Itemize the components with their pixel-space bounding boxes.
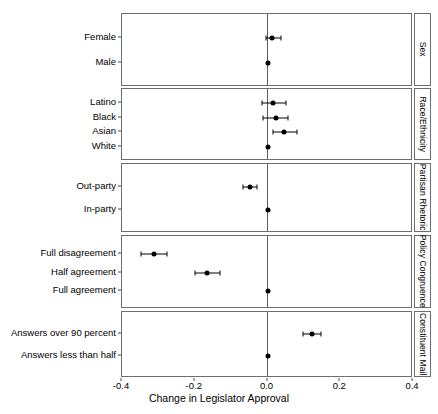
y-axis-category-label: Latino [90, 98, 116, 108]
facet-strip-label: Policy Congruence [418, 235, 427, 308]
y-axis-category-label: Half agreement [51, 267, 116, 277]
error-bar-cap-low [262, 101, 263, 106]
error-bar-cap-low [141, 252, 142, 257]
error-bar-cap-low [242, 185, 243, 190]
facet-plot-area [122, 164, 411, 231]
zero-reference-line [267, 236, 268, 307]
data-point[interactable] [265, 288, 270, 293]
facet-strip-label: Constituent Mail [418, 313, 427, 376]
data-point[interactable] [152, 252, 157, 257]
facet-strip-label: Partisan Rhetoric [418, 164, 427, 231]
y-axis-category-label: Asian [92, 126, 116, 136]
facet-plot-area [122, 89, 411, 159]
facet-strip: Race/Ethnicity [414, 88, 431, 160]
data-point[interactable] [273, 115, 278, 120]
data-point[interactable] [247, 185, 252, 190]
facet-panel-race-ethnicity [121, 88, 412, 160]
error-bar-cap-high [167, 252, 168, 257]
x-axis-tick-label: 0.2 [333, 381, 346, 391]
error-bar-cap-low [263, 115, 264, 120]
zero-reference-line [267, 312, 268, 376]
facet-strip: Constituent Mail [414, 311, 431, 377]
data-point[interactable] [271, 101, 276, 106]
y-axis-category-label: Black [93, 112, 116, 122]
x-axis-tick-label: 0.4 [405, 381, 418, 391]
x-axis-tick-label: -0.2 [186, 381, 202, 391]
error-bar-cap-low [272, 130, 273, 135]
zero-reference-line [267, 14, 268, 85]
error-bar-cap-high [286, 101, 287, 106]
facet-plot-area [122, 14, 411, 85]
facet-panel-partisan-rhetoric [121, 163, 412, 232]
error-bar-cap-low [195, 270, 196, 275]
data-point[interactable] [265, 144, 270, 149]
facet-strip: Sex [414, 13, 431, 86]
error-bar-cap-low [266, 36, 267, 41]
y-axis-category-label: Female [84, 33, 116, 43]
facet-panel-policy-congruence [121, 235, 412, 308]
facet-strip-label: Race/Ethnicity [418, 96, 427, 152]
y-axis-category-label: Answers less than half [21, 350, 116, 360]
facet-plot-area [122, 236, 411, 307]
zero-reference-line [267, 164, 268, 231]
data-point[interactable] [265, 354, 270, 359]
error-bar-cap-high [257, 185, 258, 190]
error-bar-cap-low [303, 332, 304, 337]
data-point[interactable] [309, 332, 314, 337]
data-point[interactable] [265, 208, 270, 213]
x-axis-tick-label: 0.0 [260, 381, 273, 391]
error-bar-cap-high [321, 332, 322, 337]
data-point[interactable] [265, 60, 270, 65]
data-point[interactable] [269, 36, 274, 41]
error-bar-cap-high [281, 36, 282, 41]
error-bar-cap-high [297, 130, 298, 135]
y-axis-category-label: Out-party [76, 181, 116, 191]
facet-strip: Policy Congruence [414, 235, 431, 308]
forest-plot-chart: Change in Legislator Approval FemaleMale… [0, 0, 438, 414]
error-bar-cap-high [219, 270, 220, 275]
y-axis-category-label: In-party [84, 204, 116, 214]
y-axis-category-label: Full agreement [53, 285, 116, 295]
facet-panel-sex [121, 13, 412, 86]
facet-strip: Partisan Rhetoric [414, 163, 431, 232]
facet-plot-area [122, 312, 411, 376]
y-axis-category-label: Male [95, 57, 116, 67]
facet-panel-constituent-mail [121, 311, 412, 377]
data-point[interactable] [282, 130, 287, 135]
data-point[interactable] [205, 270, 210, 275]
y-axis-category-label: Answers over 90 percent [11, 328, 116, 338]
y-axis-category-label: Full disagreement [40, 249, 116, 259]
y-axis-category-label: White [92, 141, 116, 151]
error-bar-cap-high [287, 115, 288, 120]
x-axis-title: Change in Legislator Approval [0, 393, 438, 404]
facet-strip-label: Sex [418, 42, 427, 57]
x-axis-tick-label: -0.4 [113, 381, 129, 391]
